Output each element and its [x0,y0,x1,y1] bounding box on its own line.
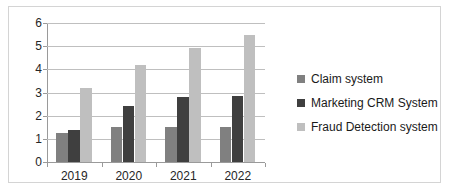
legend-swatch-icon [297,123,305,131]
x-axis-tick-label: 2021 [156,170,210,182]
y-axis-tick-label: 4 [12,63,42,75]
y-axis-tick-label: 2 [12,110,42,122]
plot-area [47,23,265,162]
bar [165,127,176,162]
x-axis-tick-label: 2019 [47,170,101,182]
x-axis-tick-label: 2020 [102,170,156,182]
legend-label: Fraud Detection system [311,121,438,134]
y-axis-tick-mark [43,23,47,24]
y-axis-tick-mark [43,139,47,140]
x-axis-tick-mark [47,163,48,167]
x-axis-tick-mark [102,163,103,167]
y-axis-tick-label: 3 [12,87,42,99]
chart-frame: 0123456 2019202020212022 Claim systemMar… [8,6,441,183]
bar [244,35,255,162]
y-axis-tick-mark [43,93,47,94]
y-axis-tick-label: 1 [12,133,42,145]
legend-item: Fraud Detection system [297,115,447,139]
x-axis-tick-label: 2022 [211,170,265,182]
legend-label: Marketing CRM System [311,97,438,110]
legend-item: Marketing CRM System [297,91,447,115]
legend-item: Claim system [297,67,447,91]
bar [189,48,200,162]
bar [135,65,146,162]
bar-group [111,23,147,162]
legend-label: Claim system [311,73,383,86]
bar [56,133,67,162]
x-axis-tick-mark [211,163,212,167]
bar [111,127,122,162]
y-axis-tick-mark [43,69,47,70]
legend-swatch-icon [297,99,305,107]
bar [232,96,243,162]
x-axis-tick-mark [265,163,266,167]
bar [80,88,91,162]
x-axis-tick-mark [156,163,157,167]
legend-swatch-icon [297,75,305,83]
bar [123,106,134,162]
y-axis-tick-label: 0 [12,156,42,168]
bar [220,127,231,162]
bar-group [220,23,256,162]
bar-group [165,23,201,162]
bar-group [56,23,92,162]
y-axis-tick-label: 5 [12,40,42,52]
y-axis-tick-label: 6 [12,17,42,29]
bar [177,97,188,162]
chart-legend: Claim systemMarketing CRM SystemFraud De… [297,67,447,139]
bar [68,130,79,162]
bar-chart: 0123456 2019202020212022 Claim systemMar… [0,0,450,196]
y-axis-tick-mark [43,46,47,47]
y-axis-tick-labels: 0123456 [9,7,42,187]
y-axis-tick-mark [43,116,47,117]
